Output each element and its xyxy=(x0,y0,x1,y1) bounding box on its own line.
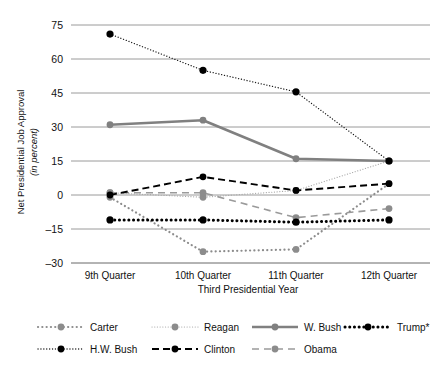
chart-text-layer: Net Presidential Job Approval (in percen… xyxy=(0,0,441,367)
x-axis-title: Third Presidential Year xyxy=(198,284,299,295)
chart-container: 75604530150–15–309th Quarter10th Quarter… xyxy=(0,0,441,367)
y-axis-title: Net Presidential Job Approval xyxy=(15,90,26,215)
y-axis-subtitle: (in percent) xyxy=(28,128,39,176)
